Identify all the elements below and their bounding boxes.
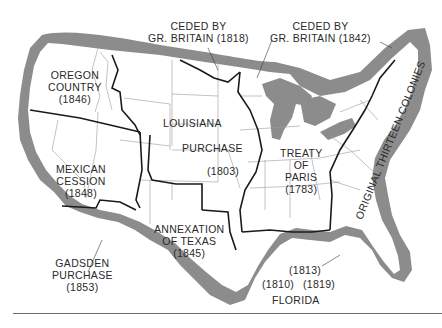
label-line: OF (280, 159, 322, 171)
label-line: (1846) (48, 93, 102, 105)
label-line: ANNEXATION (154, 223, 224, 235)
label-line: (1813) (289, 264, 321, 276)
label-line: OF TEXAS (154, 235, 224, 247)
label-mexican-cession: MEXICAN CESSION (1848) (56, 163, 106, 199)
label-louisiana-purchase: PURCHASE (182, 142, 243, 154)
label-line: (1845) (154, 247, 224, 259)
label-line: PURCHASE (52, 269, 113, 281)
label-line: (1853) (52, 281, 113, 293)
label-louisiana-year: (1803) (207, 165, 239, 177)
label-line: GADSDEN (52, 257, 113, 269)
label-florida: FLORIDA (272, 294, 320, 306)
label-ceded-1842: CEDED BY GR. BRITAIN (1842) (270, 20, 371, 44)
label-line: (1810) (262, 278, 294, 290)
label-florida-1813: (1813) (289, 264, 321, 276)
label-ceded-1818: CEDED BY GR. BRITAIN (1818) (148, 20, 249, 44)
label-annexation-texas: ANNEXATION OF TEXAS (1845) (154, 223, 224, 259)
bottom-rule-divider (13, 313, 442, 314)
label-line: CEDED BY (270, 20, 371, 32)
label-line: FLORIDA (272, 294, 320, 306)
label-florida-1819: (1819) (303, 278, 335, 290)
label-line: (1803) (207, 165, 239, 177)
label-line: COUNTRY (48, 81, 102, 93)
label-line: (1848) (56, 187, 106, 199)
label-line: TREATY (280, 147, 322, 159)
us-territorial-expansion-map: OREGON COUNTRY (1846) MEXICAN CESSION (1… (0, 0, 442, 328)
label-treaty-paris: TREATY OF PARIS (1783) (280, 147, 322, 195)
label-line: LOUISIANA (163, 117, 222, 129)
label-florida-1810: (1810) (262, 278, 294, 290)
label-line: CESSION (56, 175, 106, 187)
label-oregon-country: OREGON COUNTRY (1846) (48, 69, 102, 105)
label-line: PARIS (280, 171, 322, 183)
label-line: MEXICAN (56, 163, 106, 175)
label-gadsden-purchase: GADSDEN PURCHASE (1853) (52, 257, 113, 293)
label-line: OREGON (48, 69, 102, 81)
label-line: CEDED BY (148, 20, 249, 32)
label-line: (1819) (303, 278, 335, 290)
label-line: PURCHASE (182, 142, 243, 154)
label-louisiana-title: LOUISIANA (163, 117, 222, 129)
label-line: GR. BRITAIN (1842) (270, 32, 371, 44)
label-line: (1783) (280, 183, 322, 195)
label-line: GR. BRITAIN (1818) (148, 32, 249, 44)
